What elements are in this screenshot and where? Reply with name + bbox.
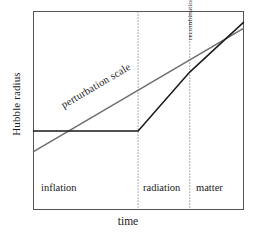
- y-axis-label: Hubble radius: [10, 59, 22, 149]
- plot-canvas: [0, 0, 256, 235]
- hubble-radius-diagram: Hubble radius time inflation radiation m…: [0, 0, 256, 235]
- era-label-inflation: inflation: [41, 182, 77, 193]
- era-label-radiation: radiation: [143, 182, 180, 193]
- x-axis-label: time: [98, 215, 158, 227]
- era-label-matter: matter: [196, 182, 223, 193]
- recombination-label: recombination: [186, 0, 194, 79]
